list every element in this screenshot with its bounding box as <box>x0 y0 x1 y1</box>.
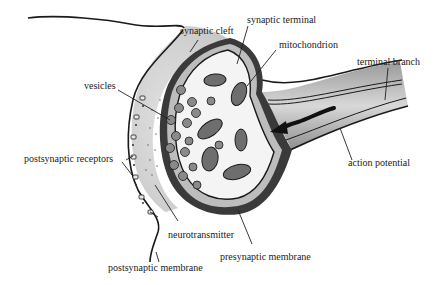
label-synaptic-cleft: synaptic cleft <box>180 26 234 36</box>
synapse-illustration <box>0 0 443 285</box>
label-terminal-branch: terminal branch <box>357 57 420 67</box>
label-postsynaptic-receptors: postsynaptic receptors <box>24 154 113 164</box>
label-vesicles: vesicles <box>84 81 116 91</box>
label-presynaptic-membrane: presynaptic membrane <box>220 252 311 262</box>
synapse-diagram: synaptic cleft synaptic terminal mitocho… <box>0 0 443 285</box>
label-postsynaptic-membrane: postsynaptic membrane <box>108 263 203 273</box>
label-mitochondrion: mitochondrion <box>279 40 338 50</box>
label-synaptic-terminal: synaptic terminal <box>247 15 316 25</box>
label-action-potential: action potential <box>348 158 410 168</box>
label-neurotransmitter: neurotransmitter <box>168 230 234 240</box>
